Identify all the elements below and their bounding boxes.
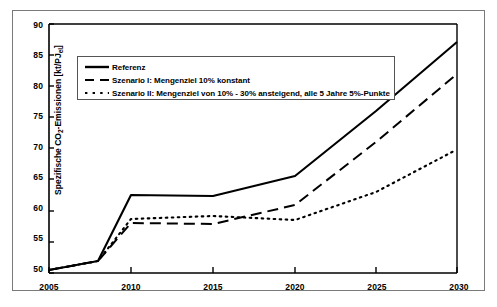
legend-label-szenario-ii: Szenario II: Mengenziel von 10% - 30% an…	[112, 89, 390, 98]
legend-item-szenario-ii: Szenario II: Mengenziel von 10% - 30% an…	[84, 87, 390, 99]
legend-label-referenz: Referenz	[112, 63, 145, 72]
legend-sample-dashed-icon	[84, 76, 110, 84]
series-line-szenario-i	[49, 74, 457, 270]
x-axis-ticks	[49, 267, 457, 273]
plot-area	[13, 11, 486, 292]
chart-figure: Spezifische CO2-Emissionen [kt/PJel] 90 …	[0, 0, 497, 307]
legend-sample-solid-icon	[84, 63, 110, 71]
series-line-szenario-ii	[49, 151, 454, 270]
figure-outer-frame: Spezifische CO2-Emissionen [kt/PJel] 90 …	[12, 10, 485, 291]
legend-sample-dotted-icon	[84, 89, 110, 97]
legend-item-referenz: Referenz	[84, 61, 145, 73]
legend-item-szenario-i: Szenario I: Mengenziel 10% konstant	[84, 74, 250, 86]
legend-label-szenario-i: Szenario I: Mengenziel 10% konstant	[112, 76, 250, 85]
chart-legend: Referenz Szenario I: Mengenziel 10% kons…	[77, 56, 395, 100]
